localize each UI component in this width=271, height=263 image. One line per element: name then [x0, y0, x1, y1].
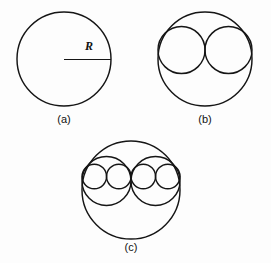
panel-c-caption: (c)	[125, 241, 138, 253]
panel-c-small-circle-1	[82, 164, 107, 189]
radius-label-R: R	[84, 39, 93, 53]
panel-c-outer-circle	[82, 141, 180, 239]
panel-a-caption: (a)	[57, 113, 70, 125]
panel-c-medium-circle-right	[131, 157, 180, 206]
circle-packing-diagram: R (a) (b) (c)	[0, 0, 271, 263]
panel-c: (c)	[82, 141, 180, 253]
panel-b-medium-circle-right	[205, 27, 252, 74]
panel-c-medium-circle-left	[82, 157, 131, 206]
panel-a: R (a)	[17, 12, 111, 125]
panel-b-caption: (b)	[198, 113, 211, 125]
panel-c-small-circle-2	[107, 164, 132, 189]
panel-b: (b)	[158, 12, 252, 125]
panel-b-medium-circle-left	[158, 27, 205, 74]
panel-b-outer-circle	[158, 12, 252, 106]
panel-c-small-circle-4	[156, 164, 181, 189]
panel-c-small-circle-3	[131, 164, 156, 189]
figure-container: R (a) (b) (c)	[0, 0, 271, 263]
